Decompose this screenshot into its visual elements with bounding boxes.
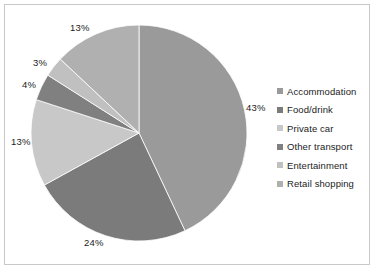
slice-label-retail-shopping: 13% [70,22,90,33]
slice-label-private-car: 13% [11,136,31,147]
slice-label-accommodation: 43% [246,102,266,113]
pie-slice-group [31,25,247,241]
slice-label-other-transport: 4% [22,79,36,90]
legend-item[interactable]: Private car [277,119,369,138]
legend-swatch-icon [277,88,283,94]
legend-swatch-icon [277,162,283,168]
slice-label-food-drink: 24% [84,237,104,248]
legend-item[interactable]: Entertainment [277,156,369,175]
legend-item-label: Food/drink [287,104,333,115]
legend-swatch-icon [277,125,283,131]
legend-item[interactable]: Accommodation [277,82,369,101]
legend-item-label: Entertainment [287,160,347,171]
legend-swatch-icon [277,181,283,187]
legend-item-label: Other transport [287,141,352,152]
pie-chart-plot-area: 13% 3% 4% 13% 24% 43% AccommodationFood/… [5,5,371,266]
legend-item[interactable]: Food/drink [277,101,369,120]
chart-legend: AccommodationFood/drinkPrivate carOther … [277,82,369,193]
legend-item[interactable]: Retail shopping [277,175,369,194]
legend-swatch-icon [277,144,283,150]
chart-frame: 13% 3% 4% 13% 24% 43% AccommodationFood/… [4,4,370,265]
legend-item-label: Private car [287,123,334,134]
legend-item[interactable]: Other transport [277,138,369,157]
legend-item-label: Accommodation [287,86,356,97]
legend-swatch-icon [277,107,283,113]
pie-chart-svg [29,23,249,243]
legend-item-label: Retail shopping [287,178,354,189]
slice-label-entertainment: 3% [33,57,47,68]
